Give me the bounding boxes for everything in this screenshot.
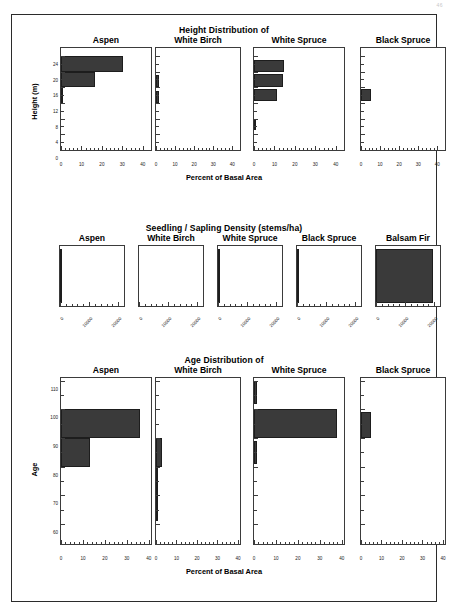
height-distribution-title: Height Distribution of: [12, 25, 436, 35]
y-tick: [361, 409, 365, 410]
y-tick: [156, 495, 160, 496]
y-tick-minor: [361, 481, 364, 482]
x-tick-minor: [311, 542, 312, 544]
panel-title: White Birch: [155, 35, 241, 45]
y-tick-minor: [61, 126, 64, 127]
x-tick-major: [213, 146, 214, 150]
plot-area: [155, 377, 241, 545]
x-tick-minor: [377, 542, 378, 544]
x-tick-minor: [206, 148, 207, 150]
seedling-density-panels: Aspen01000020000White Birch01000020000Wh…: [12, 233, 436, 353]
x-tick-major: [81, 146, 82, 150]
x-tick-minor: [285, 542, 286, 544]
x-tick-label: 10000: [81, 316, 93, 328]
x-tick-minor: [144, 542, 145, 544]
x-tick-label: 0: [253, 556, 256, 561]
x-tick-minor: [77, 148, 78, 150]
x-tick-minor: [185, 542, 186, 544]
x-tick-minor: [406, 542, 407, 544]
x-tick-minor: [79, 542, 80, 544]
x-tick-minor: [439, 542, 440, 544]
x-tick-label: 10: [272, 162, 277, 167]
x-tick-minor: [151, 304, 152, 306]
x-tick-minor: [426, 148, 427, 150]
x-tick-minor: [328, 148, 329, 150]
x-tick-minor: [410, 542, 411, 544]
y-tick-minor: [254, 510, 257, 511]
x-tick-major: [295, 146, 296, 150]
x-tick-label: 10: [378, 162, 383, 167]
y-tick-minor: [61, 64, 64, 65]
x-tick-major: [298, 540, 299, 544]
x-tick-major: [238, 540, 239, 544]
x-tick-minor: [74, 542, 75, 544]
x-tick-minor: [259, 304, 260, 306]
x-tick-major: [143, 146, 144, 150]
x-tick-minor: [384, 148, 385, 150]
y-tick-minor: [156, 64, 159, 65]
y-tick-minor: [61, 424, 64, 425]
x-tick-label: 20: [102, 556, 107, 561]
y-tick-label: 80: [47, 472, 58, 477]
y-tick: [254, 119, 258, 120]
height-distribution-block: Height Distribution of Aspen010203040048…: [12, 25, 436, 205]
x-tick-label: 0: [60, 556, 63, 561]
x-tick-label: 10: [80, 556, 85, 561]
x-tick-minor: [294, 542, 295, 544]
x-tick-minor: [332, 148, 333, 150]
y-tick: [61, 72, 65, 73]
y-tick-minor: [156, 510, 159, 511]
x-tick-minor: [427, 542, 428, 544]
panel-title: White Birch: [138, 233, 204, 243]
y-tick-minor: [361, 64, 364, 65]
x-tick-label: 0: [155, 556, 158, 561]
y-tick-label: 12: [47, 108, 58, 113]
y-tick-minor: [361, 95, 364, 96]
x-tick-major: [380, 146, 381, 150]
x-tick-label: 30: [420, 556, 425, 561]
x-tick-minor: [365, 542, 366, 544]
panel-title: Black Spruce: [296, 233, 362, 243]
plot-area: [138, 245, 204, 307]
y-tick-minor: [254, 126, 257, 127]
x-tick-minor: [369, 542, 370, 544]
x-tick-label: 10000: [239, 316, 251, 328]
x-tick-minor: [217, 148, 218, 150]
x-tick-minor: [109, 542, 110, 544]
bar: [156, 91, 159, 103]
x-tick-major: [168, 302, 169, 306]
x-tick-minor: [213, 542, 214, 544]
x-tick-minor: [422, 148, 423, 150]
x-tick-label: 40: [140, 162, 145, 167]
x-tick-minor: [344, 304, 345, 306]
x-tick-minor: [221, 148, 222, 150]
x-tick-minor: [267, 542, 268, 544]
x-axis-label: Percent of Basal Area: [12, 173, 436, 182]
y-tick: [254, 72, 258, 73]
panel-title: Balsam Fir: [375, 233, 441, 243]
y-tick: [361, 72, 365, 73]
bar: [361, 412, 371, 438]
x-tick-minor: [225, 148, 226, 150]
x-tick-major: [443, 540, 444, 544]
y-tick: [361, 467, 365, 468]
y-tick-label: 24: [47, 61, 58, 66]
x-tick-label: 30: [211, 162, 216, 167]
x-tick-minor: [106, 148, 107, 150]
x-tick-label: 0: [138, 316, 143, 321]
x-tick-major: [89, 302, 90, 306]
x-tick-minor: [398, 542, 399, 544]
x-tick-minor: [92, 542, 93, 544]
y-tick: [156, 119, 160, 120]
x-tick-label: 10000: [160, 316, 172, 328]
x-tick-major: [176, 540, 177, 544]
y-tick-minor: [361, 510, 364, 511]
x-tick-major: [355, 302, 356, 306]
height-distribution-panels: Aspen01020304004812162024White Birch0102…: [12, 35, 436, 215]
y-tick-minor: [361, 395, 364, 396]
x-tick-minor: [77, 304, 78, 306]
panel-aspen: Aspen01020304060708090100110: [60, 365, 152, 545]
x-tick-major: [83, 540, 84, 544]
x-tick-major: [361, 540, 362, 544]
x-tick-label: 0: [59, 316, 64, 321]
